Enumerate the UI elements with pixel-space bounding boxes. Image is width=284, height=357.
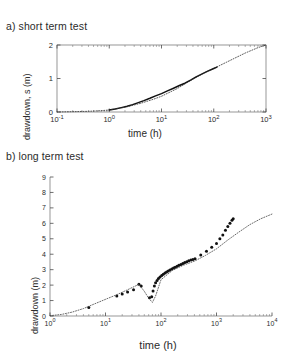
svg-text:102: 102 — [208, 114, 220, 124]
svg-text:6: 6 — [42, 220, 46, 227]
svg-text:103: 103 — [211, 317, 222, 326]
chart-b-y-axis-label: drawdown (m) — [30, 277, 40, 334]
panel-long-term-test: b) long term test — [0, 150, 284, 162]
svg-text:100: 100 — [103, 114, 115, 124]
svg-text:5: 5 — [42, 235, 46, 242]
svg-text:100: 100 — [45, 317, 56, 326]
panel-short-term-test: a) short term test — [0, 20, 284, 32]
svg-text:101: 101 — [156, 114, 168, 124]
panel-b-title: b) long term test — [6, 150, 284, 162]
svg-text:9: 9 — [42, 174, 46, 181]
svg-text:8: 8 — [42, 189, 46, 196]
svg-text:3: 3 — [42, 266, 46, 273]
svg-text:7: 7 — [42, 204, 46, 211]
chart-b-plot-area: 1001011021031040123456789 — [0, 166, 284, 357]
chart-long-term-test: drawdown (m) time (h) 100101102103104012… — [0, 166, 284, 357]
svg-text:1: 1 — [42, 297, 46, 304]
chart-short-term-test: drawdown, s (m) time (h) 10-110010110210… — [0, 36, 284, 146]
svg-text:102: 102 — [156, 317, 167, 326]
svg-text:103: 103 — [260, 114, 272, 124]
chart-b-x-axis-label: time (h) — [118, 339, 198, 351]
svg-text:0: 0 — [42, 313, 46, 320]
svg-text:101: 101 — [100, 317, 111, 326]
svg-text:0: 0 — [49, 108, 53, 117]
svg-text:2: 2 — [49, 41, 53, 50]
svg-text:104: 104 — [267, 317, 278, 326]
panel-a-title: a) short term test — [6, 20, 284, 32]
chart-a-x-axis-label: time (h) — [105, 128, 185, 139]
svg-text:2: 2 — [42, 282, 46, 289]
chart-a-y-axis-label: drawdown, s (m) — [22, 73, 32, 140]
svg-text:4: 4 — [42, 251, 46, 258]
svg-text:1: 1 — [49, 74, 53, 83]
